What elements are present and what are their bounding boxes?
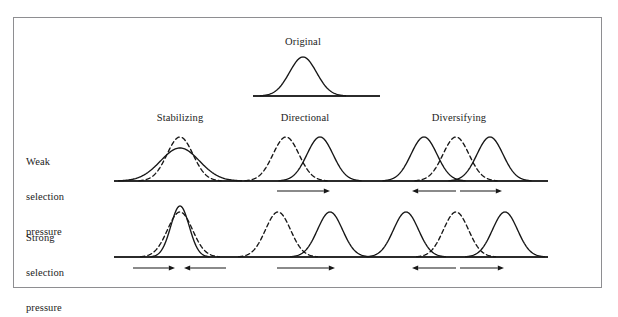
row-label-strong-line3: pressure: [26, 302, 64, 314]
column-header-diversifying: Diversifying: [432, 112, 486, 124]
panel-title-original: Original: [285, 36, 321, 48]
column-header-directional: Directional: [281, 112, 329, 124]
row-label-weak-line1: Weak: [26, 156, 64, 168]
figure-border: [13, 17, 602, 288]
row-label-weak-line2: selection: [26, 191, 64, 203]
row-label-strong-line1: Strong: [26, 232, 64, 244]
row-label-strong: Strong selection pressure: [26, 209, 64, 317]
row-label-strong-line2: selection: [26, 267, 64, 279]
column-header-stabilizing: Stabilizing: [157, 112, 204, 124]
